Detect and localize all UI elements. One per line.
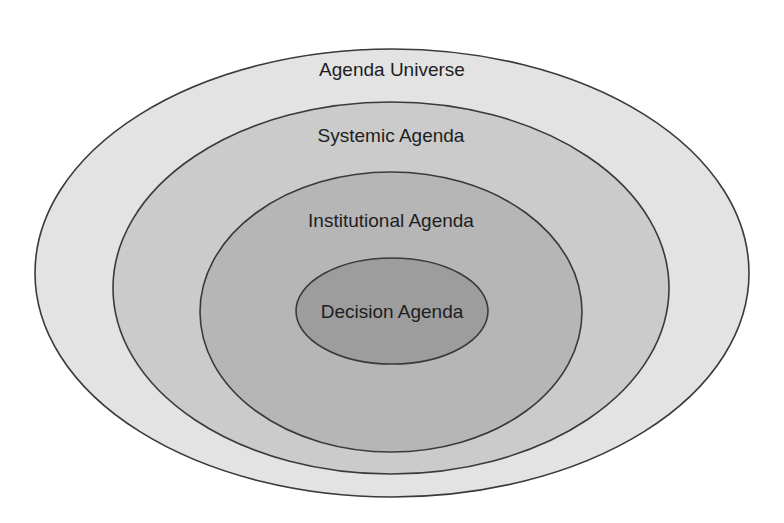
agenda-universe-label: Agenda Universe bbox=[319, 59, 465, 80]
institutional-agenda-label: Institutional Agenda bbox=[308, 210, 474, 231]
decision-agenda-label: Decision Agenda bbox=[321, 301, 464, 322]
systemic-agenda-label: Systemic Agenda bbox=[318, 125, 465, 146]
nested-agenda-diagram: Agenda Universe Systemic Agenda Institut… bbox=[0, 0, 784, 523]
layer-decision-agenda: Decision Agenda bbox=[296, 258, 488, 364]
